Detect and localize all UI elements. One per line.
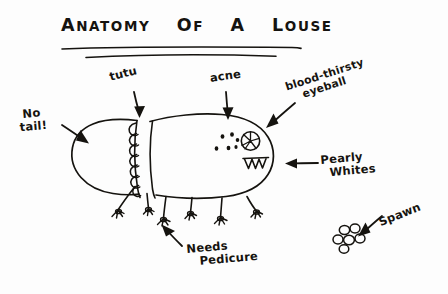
title-underline-1 xyxy=(62,47,301,49)
label-no-tail-line2: tail! xyxy=(19,119,47,134)
tutu-band-right-edge xyxy=(150,121,155,198)
thorax-head-outline xyxy=(150,114,273,198)
title-word-1: ANATOMY xyxy=(61,15,150,35)
title-underline-2 xyxy=(86,55,276,57)
title-word-2: OF xyxy=(177,15,204,35)
louse-body-group xyxy=(72,114,274,226)
title-word-3: A xyxy=(230,15,245,35)
page-title: ANATOMY OF A LOUSE xyxy=(61,16,333,36)
legs-and-feet-group xyxy=(112,187,263,227)
title-underline-group xyxy=(62,47,301,57)
label-pearly-whites: Pearly Whites xyxy=(320,149,376,179)
egg-cluster xyxy=(333,224,365,253)
arrow-pearly-whites xyxy=(285,159,318,169)
label-no-tail: No tail! xyxy=(22,106,48,134)
foot-1 xyxy=(112,209,124,218)
drawing-canvas: ANATOMY OF A LOUSE tutu acne blood-thirs… xyxy=(0,0,448,294)
foot-2 xyxy=(144,207,155,215)
teeth xyxy=(243,158,269,169)
arrow-needs-pedicure xyxy=(162,225,183,247)
arrow-tutu xyxy=(134,92,145,118)
acne-dots xyxy=(215,132,240,151)
foot-4 xyxy=(185,211,197,220)
foot-3 xyxy=(158,217,171,226)
eye xyxy=(241,132,259,150)
title-word-4: LOUSE xyxy=(272,15,333,35)
foot-6 xyxy=(251,210,263,219)
foot-5 xyxy=(215,216,228,225)
arrow-eyeball xyxy=(266,103,295,128)
